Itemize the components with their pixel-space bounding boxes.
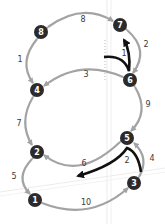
highlight-label-lower: 2 bbox=[124, 156, 129, 165]
edge-label-2-1: 5 bbox=[11, 172, 16, 181]
graph-diagram: 8 2 1 3 9 7 6 4 5 10 1 2 1 2 3 4 5 6 7 8 bbox=[0, 0, 165, 224]
svg-text:2: 2 bbox=[34, 148, 40, 157]
node-8[interactable]: 8 bbox=[34, 25, 48, 39]
edge-label-6-4: 3 bbox=[83, 70, 88, 79]
nodes: 1 2 3 4 5 6 7 8 bbox=[28, 18, 141, 207]
svg-text:3: 3 bbox=[131, 179, 137, 188]
edge-label-4-2: 7 bbox=[16, 119, 21, 128]
svg-text:6: 6 bbox=[127, 76, 133, 85]
edge-4-2 bbox=[25, 97, 33, 145]
node-4[interactable]: 4 bbox=[30, 83, 44, 97]
edge-label-3-5: 4 bbox=[149, 154, 154, 163]
highlight-label-upper: 1 bbox=[121, 49, 126, 58]
node-6[interactable]: 6 bbox=[123, 73, 137, 87]
edge-label-5-2: 6 bbox=[81, 159, 86, 168]
edge-label-7-6: 2 bbox=[143, 40, 148, 49]
svg-text:8: 8 bbox=[38, 28, 44, 37]
highlight-arrows bbox=[78, 40, 141, 176]
svg-text:7: 7 bbox=[117, 21, 123, 30]
svg-text:4: 4 bbox=[34, 86, 40, 95]
edge-label-1-3: 10 bbox=[81, 198, 91, 207]
edge-label-6-5: 9 bbox=[145, 100, 150, 109]
node-3[interactable]: 3 bbox=[127, 176, 141, 190]
svg-text:5: 5 bbox=[124, 134, 130, 143]
edge-label-8-4: 1 bbox=[17, 55, 22, 64]
node-2[interactable]: 2 bbox=[30, 145, 44, 159]
node-1[interactable]: 1 bbox=[28, 193, 42, 207]
edge-8-4 bbox=[26, 39, 37, 83]
svg-text:1: 1 bbox=[32, 196, 38, 205]
node-5[interactable]: 5 bbox=[120, 131, 134, 145]
edge-label-8-7: 8 bbox=[80, 15, 85, 24]
node-7[interactable]: 7 bbox=[113, 18, 127, 32]
edge-6-5 bbox=[131, 87, 142, 131]
